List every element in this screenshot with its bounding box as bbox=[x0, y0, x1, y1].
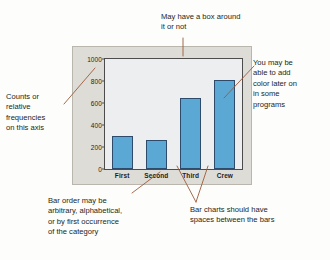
bar-second bbox=[146, 140, 167, 169]
y-axis-tick-label: 600 bbox=[91, 100, 102, 107]
x-axis-label-first: First bbox=[115, 172, 130, 179]
y-axis-tick-label: 200 bbox=[91, 144, 102, 151]
annotation-order-note: Bar order may be arbitrary, alphabetical… bbox=[48, 196, 170, 238]
y-axis-tick-mark bbox=[102, 147, 105, 148]
x-axis-label-second: Second bbox=[144, 172, 168, 179]
plot-area: 02004006008001000FirstSecondThirdCrew bbox=[104, 58, 243, 170]
y-axis-tick-label: 800 bbox=[91, 78, 102, 85]
y-axis-tick-label: 400 bbox=[91, 122, 102, 129]
annotation-spaces-note: Bar charts should have spaces between th… bbox=[190, 205, 310, 226]
y-axis-tick-label: 1000 bbox=[87, 56, 102, 63]
bar-crew bbox=[214, 80, 235, 169]
bar-third bbox=[180, 98, 201, 169]
annotation-counts-note: Counts or relative frequencies on this a… bbox=[6, 92, 72, 134]
plot-inner: 02004006008001000FirstSecondThirdCrew bbox=[105, 59, 242, 169]
bar-first bbox=[112, 136, 133, 169]
figure-root: 02004006008001000FirstSecondThirdCrew Ma… bbox=[0, 0, 330, 260]
annotation-color-note: You may be able to add color later on in… bbox=[253, 58, 325, 110]
y-axis-tick-mark bbox=[102, 169, 105, 170]
x-axis-label-third: Third bbox=[182, 172, 199, 179]
y-axis-tick-mark bbox=[102, 125, 105, 126]
y-axis-tick-mark bbox=[102, 59, 105, 60]
x-axis-label-crew: Crew bbox=[217, 172, 233, 179]
annotation-box-note: May have a box around it or not bbox=[161, 12, 277, 33]
y-axis-tick-mark bbox=[102, 81, 105, 82]
y-axis-tick-mark bbox=[102, 103, 105, 104]
y-axis-tick-label: 0 bbox=[98, 166, 102, 173]
chart-frame: 02004006008001000FirstSecondThirdCrew bbox=[72, 46, 252, 185]
